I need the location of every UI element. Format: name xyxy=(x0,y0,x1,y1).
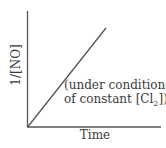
annotation-line-2: of constant [Cl2]) xyxy=(64,92,166,111)
annotation: (under conditions of constant [Cl2]) xyxy=(64,78,166,111)
x-axis-label: Time xyxy=(70,128,120,142)
plot-area xyxy=(0,0,166,148)
y-axis-label: 1/[NO] xyxy=(9,35,23,95)
annotation-line-1: (under conditions xyxy=(64,78,166,92)
